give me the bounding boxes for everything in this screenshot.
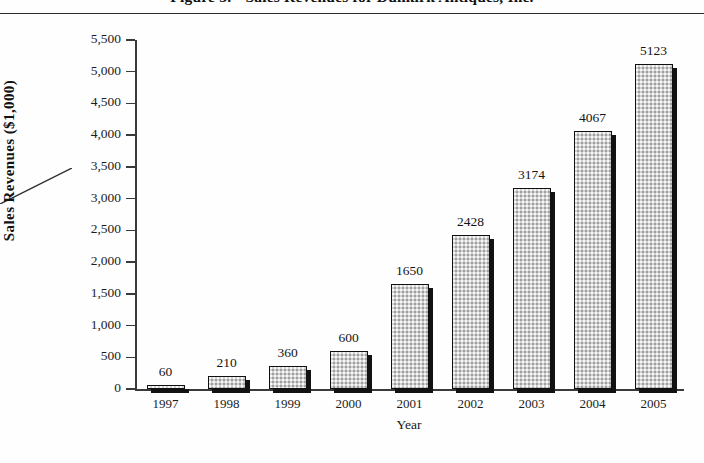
x-axis-tick-label: 2004 [580, 396, 606, 412]
x-axis-tick-label: 2001 [397, 396, 423, 412]
y-axis-tick-label: 3,000 [65, 190, 121, 206]
y-axis-tick-label: 4,500 [65, 94, 121, 110]
y-axis-tick-label: 2,500 [65, 221, 121, 237]
bar-value-label: 5123 [640, 43, 667, 59]
x-axis-tick-label: 1997 [153, 396, 179, 412]
bar-value-label: 4067 [579, 110, 606, 126]
figure-page: Figure 5. Sales Revenues for Dunkirk Ant… [0, 0, 704, 463]
bar-value-label: 600 [338, 330, 358, 346]
y-axis-tick [126, 388, 135, 389]
figure-caption-clip: Figure 5. Sales Revenues for Dunkirk Ant… [0, 0, 704, 11]
bar: 1650 [391, 284, 429, 389]
x-axis-title: Year [397, 417, 422, 433]
y-axis-tick-label: 3,500 [65, 158, 121, 174]
bar-body [147, 385, 185, 389]
y-axis-tick [126, 230, 135, 231]
bar-value-label: 3174 [518, 167, 545, 183]
x-axis-tick-label: 2003 [519, 396, 545, 412]
x-axis-tick-label: 2005 [641, 396, 667, 412]
bar: 5123 [635, 64, 673, 389]
y-axis-tick-label: 2,000 [65, 253, 121, 269]
bar-body [391, 284, 429, 389]
bar-body [452, 235, 490, 389]
y-axis-tick [126, 293, 135, 294]
y-axis-tick [126, 103, 135, 104]
y-axis-tick [126, 261, 135, 262]
y-axis-tick [126, 198, 135, 199]
figure-caption: Figure 5. Sales Revenues for Dunkirk Ant… [0, 0, 704, 6]
bar: 600 [330, 351, 368, 389]
bar-body [574, 131, 612, 389]
x-axis-tick-label: 2000 [336, 396, 362, 412]
bar-body [208, 376, 246, 389]
y-axis-tick-label: 5,000 [65, 63, 121, 79]
y-axis-tick [126, 325, 135, 326]
plot-area: 6021036060016502428317440675123 [135, 40, 684, 389]
caption-divider-rule [0, 13, 704, 14]
bar-value-label: 60 [159, 364, 173, 380]
y-axis-tick-label: 1,000 [65, 317, 121, 333]
bar: 60 [147, 385, 185, 389]
bar: 4067 [574, 131, 612, 389]
y-axis-tick [126, 39, 135, 40]
y-axis-tick-label: 4,000 [65, 126, 121, 142]
bar: 2428 [452, 235, 490, 389]
y-axis-tick-label: 0 [65, 380, 121, 396]
bar-value-label: 1650 [396, 263, 423, 279]
bar: 3174 [513, 188, 551, 389]
y-axis-tick [126, 166, 135, 167]
x-axis-tick-label: 1999 [275, 396, 301, 412]
bar-value-label: 210 [216, 355, 236, 371]
y-axis-title: Sales Revenues ($1,000) [1, 0, 18, 371]
y-axis-tick [126, 71, 135, 72]
y-axis-tick [126, 357, 135, 358]
bar-body [269, 366, 307, 389]
bar-body [513, 188, 551, 389]
bar: 210 [208, 376, 246, 389]
bar-value-label: 360 [277, 345, 297, 361]
bar: 360 [269, 366, 307, 389]
y-axis-tick-label: 5,500 [65, 31, 121, 47]
bar-shadow [151, 389, 189, 393]
x-axis-tick-label: 1998 [214, 396, 240, 412]
figure-caption-title: Sales Revenues for Dunkirk Antiques, Inc… [245, 0, 533, 5]
y-axis-tick [126, 134, 135, 135]
bar-value-label: 2428 [457, 214, 484, 230]
bar-body [330, 351, 368, 389]
y-axis-tick-label: 500 [65, 348, 121, 364]
figure-caption-label: Figure 5. [170, 0, 231, 5]
bar-body [635, 64, 673, 389]
y-axis-tick-label: 1,500 [65, 285, 121, 301]
x-axis-tick-label: 2002 [458, 396, 484, 412]
